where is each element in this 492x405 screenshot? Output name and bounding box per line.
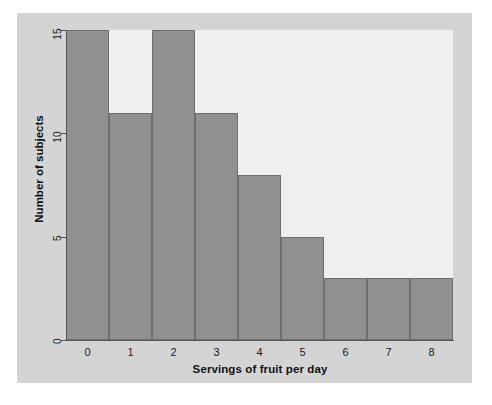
figure-panel: 051015 012345678 Servings of fruit per d… xyxy=(17,13,472,383)
x-tick-label-3: 3 xyxy=(197,346,237,358)
bars-layer xyxy=(66,30,453,340)
x-tick-label-2: 2 xyxy=(154,346,194,358)
x-axis-line xyxy=(66,340,454,341)
bar-4 xyxy=(238,175,281,340)
x-axis-title: Servings of fruit per day xyxy=(66,363,454,375)
plot-area xyxy=(66,30,453,340)
bar-7 xyxy=(367,278,410,340)
y-tick-label-15: 15 xyxy=(52,29,63,51)
x-tick-label-4: 4 xyxy=(240,346,280,358)
x-tick-label-0: 0 xyxy=(68,346,108,358)
chart-figure: 051015 012345678 Servings of fruit per d… xyxy=(0,0,492,405)
bar-1 xyxy=(109,113,152,340)
x-tick-label-6: 6 xyxy=(326,346,366,358)
y-axis-title: Number of subjects xyxy=(33,94,45,244)
y-tick-label-10: 10 xyxy=(52,132,63,154)
x-tick-label-7: 7 xyxy=(369,346,409,358)
x-tick-label-5: 5 xyxy=(283,346,323,358)
bar-3 xyxy=(195,113,238,340)
bar-2 xyxy=(152,30,195,340)
y-tick-label-0: 0 xyxy=(52,339,63,361)
bar-6 xyxy=(324,278,367,340)
bar-5 xyxy=(281,237,324,340)
x-tick-label-1: 1 xyxy=(111,346,151,358)
y-axis-line xyxy=(66,30,67,341)
x-tick-label-8: 8 xyxy=(412,346,452,358)
bar-0 xyxy=(66,30,109,340)
bar-8 xyxy=(410,278,453,340)
y-tick-label-5: 5 xyxy=(52,235,63,257)
